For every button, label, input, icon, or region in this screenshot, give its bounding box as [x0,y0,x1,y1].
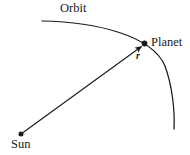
sun-marker [19,132,24,137]
planet-label: Planet [151,36,182,49]
radius-vector-label: r [136,51,140,61]
radius-vector-arrow [21,47,142,135]
orbit-diagram-figure: Orbit Planet Sun r [0,0,190,155]
diagram-canvas [0,0,190,155]
sun-label: Sun [11,138,30,151]
planet-marker [142,41,148,47]
orbit-label: Orbit [60,2,86,15]
